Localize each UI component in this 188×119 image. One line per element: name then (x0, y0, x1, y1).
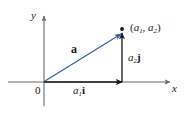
x-axis-label: x (172, 83, 177, 94)
point-a2-subscript: 2 (154, 27, 157, 34)
y-component-subscript: 2 (134, 57, 137, 64)
y-component-unit-vector: j (137, 51, 141, 63)
terminal-point-label: (a1, a2) (130, 22, 161, 33)
y-component-base: a (128, 51, 134, 63)
point-a2-base: a (148, 21, 154, 33)
y-axis-label: y (31, 10, 36, 21)
point-a1-subscript: 1 (139, 27, 142, 34)
y-component-label: a2j (128, 52, 141, 63)
x-component-subscript: 1 (79, 90, 82, 97)
diagram-canvas (0, 0, 188, 119)
point-close-paren: ) (157, 21, 161, 33)
terminal-point-dot (120, 27, 124, 31)
vector-a-label: a (71, 43, 77, 55)
vector-component-diagram: y x 0 a a1i a2j (a1, a2) (0, 0, 188, 119)
x-component-unit-vector: i (82, 84, 85, 96)
x-component-base: a (73, 84, 79, 96)
vector-a-label-text: a (71, 42, 77, 56)
x-component-label: a1i (73, 85, 85, 96)
origin-label: 0 (35, 85, 41, 96)
vector-a-arrow (45, 34, 121, 81)
